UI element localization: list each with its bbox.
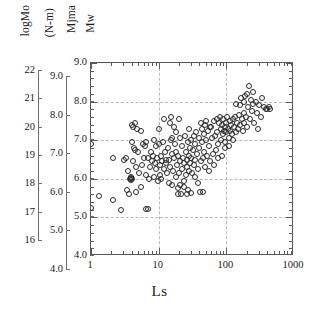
x-tick — [159, 63, 160, 69]
y-tick-label: 9.0 — [69, 57, 87, 68]
x-tick — [156, 63, 157, 66]
y-tick — [289, 125, 292, 126]
y-tick-label: 19 — [21, 150, 35, 161]
data-point — [164, 170, 170, 176]
x-tick — [284, 63, 285, 66]
data-point — [138, 184, 144, 190]
x-tick — [191, 251, 192, 254]
data-point — [138, 128, 144, 134]
data-point — [158, 176, 164, 182]
y-tick-label: 20 — [21, 122, 35, 133]
x-tick — [220, 63, 221, 66]
gridline-horizontal — [91, 179, 292, 180]
data-point — [213, 147, 219, 153]
y-tick-label: 4.0 — [45, 264, 63, 275]
x-tick — [144, 251, 145, 254]
x-tick — [247, 63, 248, 66]
y-tick — [91, 202, 94, 203]
x-tick — [279, 251, 280, 254]
data-point — [186, 126, 192, 132]
units-header: (N-m) — [44, 8, 56, 37]
x-tick — [123, 63, 124, 66]
y-tick-label: 16 — [21, 235, 35, 246]
data-point — [244, 124, 250, 130]
y-tick — [91, 217, 97, 218]
y-tick — [289, 248, 292, 249]
y-tick — [289, 78, 292, 79]
data-point — [250, 89, 256, 95]
y-tick — [289, 225, 292, 226]
data-point — [241, 99, 247, 105]
data-point — [230, 137, 236, 143]
y-tick — [91, 156, 94, 157]
y-tick — [38, 155, 42, 156]
y-tick — [66, 192, 70, 193]
y-tick — [91, 248, 94, 249]
y-tick — [91, 241, 94, 242]
x-tick — [148, 251, 149, 254]
plot-area — [90, 62, 293, 255]
data-point — [139, 162, 145, 168]
y-tick — [91, 109, 94, 110]
x-tick — [267, 63, 268, 66]
y-tick — [289, 210, 292, 211]
y-tick-label: 7.0 — [45, 148, 63, 159]
data-point — [267, 106, 273, 112]
data-point — [194, 151, 200, 157]
y-tick — [289, 109, 292, 110]
x-tick — [216, 251, 217, 254]
data-point — [129, 176, 135, 182]
x-tick — [247, 251, 248, 254]
data-point — [118, 207, 124, 213]
x-tick — [226, 248, 227, 254]
y-tick — [289, 241, 292, 242]
data-point — [110, 155, 116, 161]
x-tick — [223, 251, 224, 254]
data-point — [259, 95, 265, 101]
data-point — [251, 120, 257, 126]
y-tick-label: 22 — [21, 65, 35, 76]
data-point — [258, 114, 264, 120]
y-tick — [289, 194, 292, 195]
y-tick — [38, 70, 42, 71]
y-tick — [286, 63, 292, 64]
y-tick — [66, 153, 70, 154]
y-tick — [91, 132, 94, 133]
y-tick — [289, 156, 292, 157]
y-tick — [38, 98, 42, 99]
data-point — [135, 149, 141, 155]
data-point — [133, 189, 139, 195]
y-tick — [91, 148, 94, 149]
x-tick — [179, 63, 180, 66]
y-tick-label: 6.0 — [45, 187, 63, 198]
y-tick — [90, 255, 94, 256]
x-tick — [152, 251, 153, 254]
mjma-header: Mjma — [66, 5, 78, 33]
x-tick — [274, 63, 275, 66]
y-tick — [91, 225, 94, 226]
data-point — [161, 116, 167, 122]
y-tick — [38, 240, 42, 241]
logmo-header: logMo — [20, 5, 32, 36]
data-point — [195, 166, 201, 172]
x-tick — [220, 251, 221, 254]
x-tick-label: 1 — [65, 260, 115, 271]
x-tick — [206, 63, 207, 66]
data-point — [211, 162, 217, 168]
y-tick-label: 5.0 — [69, 211, 87, 222]
gridline-horizontal — [91, 217, 292, 218]
y-tick-label: 8.0 — [69, 96, 87, 107]
data-point — [110, 197, 116, 203]
data-point — [200, 189, 206, 195]
x-tick — [274, 251, 275, 254]
y-tick-label: 4.0 — [69, 250, 87, 261]
y-tick — [66, 76, 70, 77]
x-tick — [259, 251, 260, 254]
y-tick — [38, 212, 42, 213]
y-tick — [91, 194, 94, 195]
y-tick — [91, 102, 97, 103]
x-tick — [279, 63, 280, 66]
y-tick-label: 9.0 — [45, 71, 63, 82]
y-tick-label: 7.0 — [69, 134, 87, 145]
data-point — [160, 139, 166, 145]
